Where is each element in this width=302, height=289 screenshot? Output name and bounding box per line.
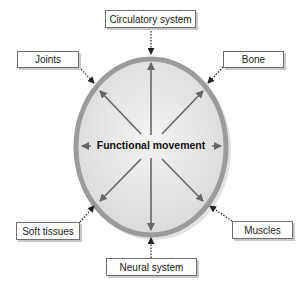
connector-soft-tissues [80,206,94,222]
label-muscles: Muscles [232,221,293,239]
label-soft-tissues: Soft tissues [16,222,80,240]
center-label: Functional movement [90,139,212,151]
label-neural-system: Neural system [106,258,197,276]
connector-joints [79,67,94,83]
label-circulatory-system: Circulatory system [105,10,196,28]
connector-bone [208,67,223,83]
label-joints: Joints [17,51,79,68]
connector-muscles [210,206,232,221]
label-bone: Bone [223,51,284,68]
